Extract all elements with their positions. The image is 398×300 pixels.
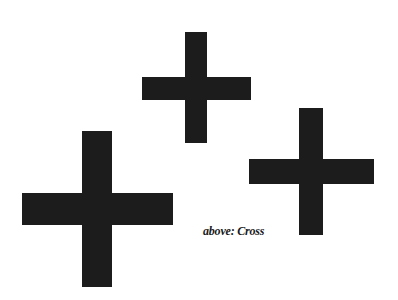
caption: above: Cross [203,224,264,239]
cross-right-horizontal-bar [249,159,374,184]
cross-top-horizontal-bar [142,77,251,100]
cross-bottom-left-horizontal-bar [22,193,173,225]
